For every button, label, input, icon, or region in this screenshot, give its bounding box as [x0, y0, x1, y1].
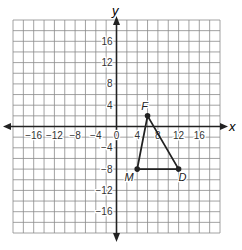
y-tick-label: −4	[101, 142, 113, 153]
y-tick-label: 8	[107, 78, 113, 89]
x-tick-label: 16	[194, 130, 206, 141]
y-tick-label: 4	[107, 100, 113, 111]
x-tick-label: 12	[173, 130, 185, 141]
coordinate-plane: −16−12−8−40481216161284−4−8−12−16 FMD x …	[0, 0, 242, 250]
vertex-point-f	[145, 113, 151, 119]
coordinate-plane-figure: −16−12−8−40481216161284−4−8−12−16 FMD x …	[0, 0, 242, 250]
x-axis-right-arrow-icon	[220, 123, 228, 130]
y-tick-label: −16	[96, 206, 113, 217]
y-axis-label: y	[111, 3, 120, 18]
y-axis-down-arrow-icon	[113, 233, 120, 242]
vertex-label-m: M	[125, 171, 135, 183]
x-tick-label: −12	[46, 130, 63, 141]
y-tick-label: −12	[96, 185, 113, 196]
vertex-label-f: F	[141, 100, 149, 112]
x-tick-label: 0	[114, 130, 120, 141]
x-tick-label: −8	[69, 130, 81, 141]
y-tick-label: 16	[101, 36, 113, 47]
x-axis-label: x	[228, 119, 236, 134]
x-tick-label: −16	[25, 130, 42, 141]
y-tick-label: 12	[101, 57, 113, 68]
vertex-label-d: D	[179, 171, 187, 183]
x-tick-label: −4	[90, 130, 102, 141]
y-tick-label: −8	[101, 164, 113, 175]
triangle-fmd: FMD	[125, 100, 187, 183]
vertex-point-m	[134, 166, 140, 172]
x-axis-left-arrow-icon	[3, 123, 11, 130]
x-tick-label: 4	[134, 130, 140, 141]
